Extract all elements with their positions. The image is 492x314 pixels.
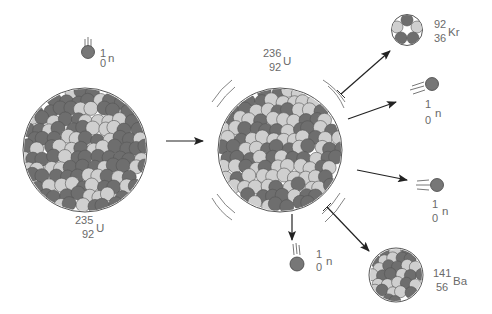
kr-mass: 92: [434, 18, 446, 30]
neutron-2-symbol: n: [442, 205, 448, 217]
u236-mass: 236: [263, 47, 281, 59]
neutron-3-atomic: 0: [316, 261, 322, 273]
u235-mass: 235: [75, 214, 93, 226]
neutron-icon: [426, 78, 439, 91]
u235-atomic: 92: [82, 228, 94, 240]
kr-atomic: 36: [434, 32, 446, 44]
fission-diagram: 1 0 n 235 92 U 236 92 U: [0, 0, 492, 314]
neutron-icon: [82, 46, 95, 59]
motion-lines-icon: [410, 82, 425, 94]
product-neutron-2: 1 0 n: [416, 179, 448, 225]
neutron-3-mass: 1: [316, 248, 322, 260]
u236-symbol: U: [283, 55, 291, 67]
neutron-1-atomic: 0: [425, 114, 431, 126]
u236-atomic: 92: [269, 61, 281, 73]
uranium-236-nucleus: [215, 83, 349, 213]
u235-symbol: U: [96, 222, 104, 234]
motion-lines-icon: [293, 243, 300, 255]
neutron-icon: [431, 179, 444, 192]
krypton-label: 92 36 Kr: [434, 18, 460, 44]
neutron-3-symbol: n: [326, 255, 332, 267]
uranium-235-nucleus: [17, 84, 152, 214]
neutron-2-atomic: 0: [432, 212, 438, 224]
product-neutron-1: 1 0 n: [410, 78, 441, 127]
neutron-2-mass: 1: [432, 198, 438, 210]
kr-symbol: Kr: [448, 26, 460, 38]
ba-atomic: 56: [436, 281, 448, 293]
motion-lines-icon: [416, 180, 430, 190]
ba-symbol: Ba: [453, 275, 468, 287]
product-neutron-3: 1 0 n: [290, 243, 332, 273]
barium-label: 141 56 Ba: [433, 267, 468, 293]
incoming-neutron: 1 0 n: [82, 37, 115, 69]
uranium-236-label: 236 92 U: [263, 47, 291, 73]
neutron-1-mass: 1: [425, 98, 431, 110]
neutron-1-symbol: n: [435, 107, 441, 119]
krypton-92-nucleus: [391, 14, 423, 46]
incoming-neutron-symbol: n: [108, 52, 114, 64]
barium-141-nucleus: [366, 245, 428, 307]
uranium-235-label: 235 92 U: [75, 214, 104, 240]
ba-mass: 141: [433, 267, 451, 279]
incoming-neutron-atomic: 0: [100, 57, 106, 69]
neutron-icon: [290, 257, 304, 271]
